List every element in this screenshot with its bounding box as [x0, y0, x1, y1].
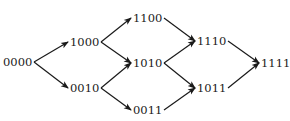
edge-1100-to-1110 — [164, 18, 195, 41]
node-0000: 0000 — [3, 56, 32, 68]
edge-1000-to-1010 — [101, 42, 131, 63]
lattice-diagram: 000010000010110010100011111010111111 — [0, 0, 290, 121]
node-1010: 1010 — [133, 57, 162, 69]
edge-1010-to-1011 — [164, 63, 195, 88]
edge-0011-to-1011 — [164, 88, 195, 110]
edge-0010-to-0011 — [101, 88, 131, 110]
node-0010: 0010 — [70, 82, 99, 94]
edge-0010-to-1010 — [101, 63, 131, 88]
node-1111: 1111 — [261, 57, 290, 69]
edge-1010-to-1110 — [164, 41, 195, 63]
node-1000: 1000 — [70, 36, 99, 48]
edge-1110-to-1111 — [228, 41, 259, 63]
edge-1000-to-1100 — [101, 18, 131, 42]
node-1110: 1110 — [197, 35, 226, 47]
edge-1011-to-1111 — [228, 63, 259, 88]
edge-0000-to-0010 — [34, 62, 68, 88]
node-1011: 1011 — [197, 82, 226, 94]
node-0011: 0011 — [133, 104, 162, 116]
node-1100: 1100 — [133, 12, 162, 24]
edge-0000-to-1000 — [34, 42, 68, 62]
